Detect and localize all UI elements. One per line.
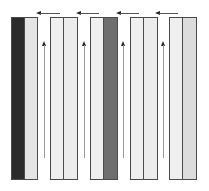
left-arrow-icon [155, 13, 178, 14]
up-arrow-icon [163, 41, 164, 158]
bar-3-right [104, 17, 118, 180]
bar-1-left [11, 17, 25, 180]
bar-5-left [169, 17, 183, 180]
bar-pair-3 [90, 17, 118, 180]
bar-2-right [64, 17, 78, 180]
bar-4-left [130, 17, 144, 180]
bar-pair-1 [11, 17, 38, 180]
left-arrow-icon [116, 13, 139, 14]
up-arrow-icon [84, 41, 85, 158]
diagram-canvas [0, 0, 209, 191]
up-arrow-icon [44, 41, 45, 158]
left-arrow-icon [36, 13, 60, 14]
bar-pair-2 [50, 17, 78, 180]
bar-2-left [50, 17, 64, 180]
bar-1-right [25, 17, 38, 180]
bar-pair-5 [169, 17, 197, 180]
up-arrow-icon [123, 41, 124, 158]
bar-4-right [144, 17, 158, 180]
left-arrow-icon [76, 13, 99, 14]
bar-3-left [90, 17, 104, 180]
bar-5-right [183, 17, 197, 180]
bar-pair-4 [130, 17, 158, 180]
